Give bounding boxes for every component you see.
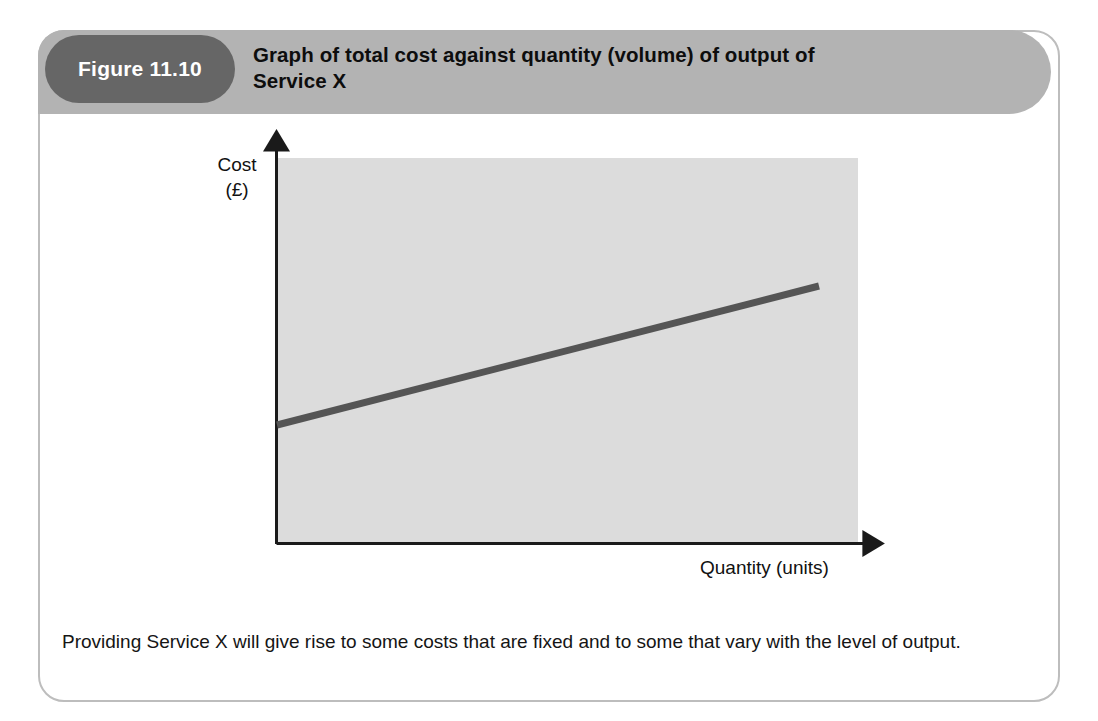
figure-number-pill: Figure 11.10	[45, 35, 235, 103]
y-axis-label: Cost (£)	[206, 152, 268, 202]
x-axis-label: Quantity (units)	[700, 557, 829, 579]
figure-title: Graph of total cost against quantity (vo…	[253, 42, 873, 94]
figure-caption: Providing Service X will give rise to so…	[62, 628, 1022, 655]
chart-plot-background	[277, 158, 858, 544]
y-axis-label-line-1: Cost	[206, 152, 268, 177]
figure-number-label: Figure 11.10	[78, 57, 202, 81]
y-axis-label-line-2: (£)	[206, 177, 268, 202]
